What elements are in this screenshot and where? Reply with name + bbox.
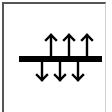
down-arrow-icon bbox=[55, 60, 65, 80]
up-arrow-icon bbox=[46, 35, 56, 58]
down-arrow-icon bbox=[37, 60, 47, 80]
down-arrow-icon bbox=[73, 60, 83, 80]
up-arrow-icon bbox=[64, 35, 74, 58]
flow-through-plane-icon bbox=[0, 0, 112, 112]
up-arrows bbox=[46, 35, 92, 58]
up-arrow-icon bbox=[82, 35, 92, 58]
down-arrows bbox=[37, 60, 83, 80]
